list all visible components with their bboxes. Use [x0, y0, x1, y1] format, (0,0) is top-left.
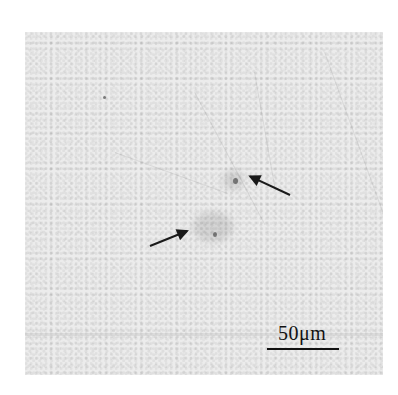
scan-artifact-line — [25, 333, 383, 336]
dark-spot — [233, 178, 238, 184]
grain-boundary — [115, 152, 228, 194]
dark-spot — [103, 96, 106, 99]
dark-region — [193, 212, 233, 242]
scale-bar-label: 50μm — [278, 322, 326, 345]
micrograph-image — [25, 32, 383, 375]
scale-bar — [267, 348, 339, 350]
grain-boundary — [194, 92, 265, 225]
grain-boundary — [324, 52, 383, 240]
dark-spot — [213, 232, 217, 237]
